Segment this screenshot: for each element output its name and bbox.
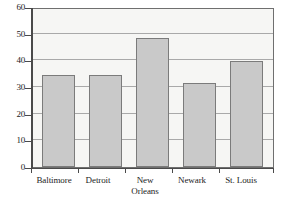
bar-chart: 60 50 40 30 20 10 0 Baltimore Detroit Ne…: [0, 0, 282, 200]
x-tick-0: [31, 169, 32, 173]
bar-st-louis: [230, 61, 263, 167]
x-axis-label-st-louis: St. Louis: [210, 175, 272, 186]
y-tick-10: [25, 141, 31, 142]
y-axis-label-0: 0: [1, 163, 25, 172]
y-tick-50: [25, 35, 31, 36]
x-tick-5: [273, 169, 274, 173]
bar-detroit: [89, 75, 122, 168]
gridline-50: [32, 33, 273, 34]
x-tick-1: [78, 169, 79, 173]
x-tick-3: [172, 169, 173, 173]
x-tick-4: [219, 169, 220, 173]
y-axis-line: [31, 8, 33, 169]
x-tick-2: [125, 169, 126, 173]
y-axis-label-40: 40: [1, 56, 25, 65]
y-axis-label-50: 50: [1, 30, 25, 39]
y-tick-40: [25, 61, 31, 62]
bar-baltimore: [42, 75, 75, 167]
y-tick-60: [25, 8, 31, 9]
y-axis-labels: 60 50 40 30 20 10 0: [0, 0, 25, 200]
bar-newark: [183, 83, 216, 167]
bar-new-orleans: [136, 38, 169, 167]
y-tick-30: [25, 88, 31, 89]
y-axis-label-60: 60: [1, 3, 25, 12]
y-tick-20: [25, 115, 31, 116]
y-axis-label-20: 20: [1, 110, 25, 119]
y-axis-label-30: 30: [1, 83, 25, 92]
x-axis-line: [31, 168, 274, 169]
plot-area: [31, 8, 274, 168]
y-axis-label-10: 10: [1, 136, 25, 145]
